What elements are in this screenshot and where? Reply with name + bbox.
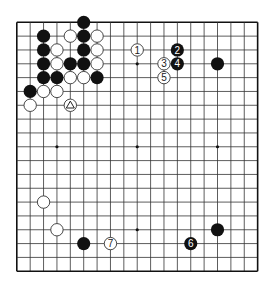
white-stone-icon bbox=[51, 58, 63, 70]
white-stone bbox=[64, 30, 76, 42]
move-number: 3 bbox=[161, 58, 167, 69]
black-stone bbox=[37, 71, 50, 84]
black-stone bbox=[37, 43, 50, 56]
white-stone-icon bbox=[37, 196, 49, 208]
white-stone-icon bbox=[64, 71, 76, 83]
black-stone bbox=[37, 30, 50, 43]
white-stone-7: 7 bbox=[104, 237, 116, 249]
star-point bbox=[136, 228, 139, 231]
black-stone-icon bbox=[50, 71, 63, 84]
white-stone bbox=[78, 71, 90, 83]
star-point bbox=[55, 145, 58, 148]
black-stone bbox=[90, 71, 103, 84]
white-stone-5: 5 bbox=[158, 71, 170, 83]
black-stone-icon bbox=[77, 43, 90, 56]
black-stone bbox=[77, 30, 90, 43]
go-board-grid[interactable]: 1234576 bbox=[0, 0, 273, 288]
move-number: 2 bbox=[175, 45, 181, 56]
star-point bbox=[136, 62, 139, 65]
white-stone bbox=[51, 44, 63, 56]
black-stone-6: 6 bbox=[184, 237, 197, 250]
black-stone-icon bbox=[77, 237, 90, 250]
star-point bbox=[216, 145, 219, 148]
black-stone-icon bbox=[77, 16, 90, 29]
white-stone-icon bbox=[91, 58, 103, 70]
black-stone bbox=[77, 57, 90, 70]
black-stone-icon bbox=[37, 71, 50, 84]
white-stone-icon bbox=[91, 44, 103, 56]
black-stone-icon bbox=[37, 30, 50, 43]
black-stone-icon bbox=[24, 85, 37, 98]
black-stone bbox=[211, 57, 224, 70]
white-stone bbox=[91, 58, 103, 70]
move-number: 5 bbox=[161, 72, 167, 83]
white-stone bbox=[64, 71, 76, 83]
white-stone-icon bbox=[51, 85, 63, 97]
black-stone bbox=[77, 16, 90, 29]
move-number: 6 bbox=[188, 238, 194, 249]
black-stone-4: 4 bbox=[171, 57, 184, 70]
black-stone-2: 2 bbox=[171, 43, 184, 56]
white-stone bbox=[24, 99, 36, 111]
black-stone-icon bbox=[77, 30, 90, 43]
black-stone bbox=[211, 223, 224, 236]
white-stone bbox=[51, 58, 63, 70]
white-stone-icon bbox=[51, 44, 63, 56]
white-stone-icon bbox=[64, 30, 76, 42]
white-stone bbox=[37, 85, 49, 97]
star-point bbox=[136, 145, 139, 148]
black-stone-icon bbox=[211, 57, 224, 70]
white-stone bbox=[64, 99, 76, 111]
black-stone-icon bbox=[90, 71, 103, 84]
black-stone bbox=[24, 85, 37, 98]
black-stone bbox=[64, 57, 77, 70]
move-number: 1 bbox=[134, 45, 140, 56]
black-stone bbox=[50, 71, 63, 84]
white-stone-icon bbox=[51, 224, 63, 236]
black-stone-icon bbox=[77, 57, 90, 70]
black-stone bbox=[77, 43, 90, 56]
black-stone bbox=[77, 237, 90, 250]
white-stone bbox=[91, 30, 103, 42]
white-stone-3: 3 bbox=[158, 58, 170, 70]
white-stone-1: 1 bbox=[131, 44, 143, 56]
white-stone-icon bbox=[78, 71, 90, 83]
white-stone-icon bbox=[37, 85, 49, 97]
white-stone bbox=[91, 44, 103, 56]
move-number: 4 bbox=[175, 58, 181, 69]
black-stone-icon bbox=[211, 223, 224, 236]
white-stone-icon bbox=[24, 99, 36, 111]
move-number: 7 bbox=[108, 238, 114, 249]
white-stone bbox=[51, 85, 63, 97]
black-stone-icon bbox=[37, 57, 50, 70]
white-stone bbox=[37, 196, 49, 208]
white-stone-icon bbox=[91, 30, 103, 42]
black-stone bbox=[37, 57, 50, 70]
black-stone-icon bbox=[64, 57, 77, 70]
go-board[interactable]: 1234576 bbox=[0, 0, 273, 288]
white-stone bbox=[51, 224, 63, 236]
black-stone-icon bbox=[37, 43, 50, 56]
